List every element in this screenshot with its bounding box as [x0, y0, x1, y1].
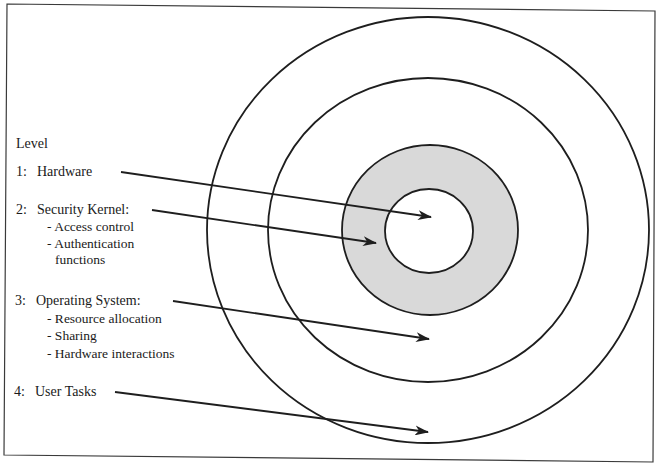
level-3-item: - Resource allocation [47, 311, 162, 326]
ring-hardware [385, 189, 473, 273]
security-rings-diagram: Level 1: Hardware 2: Security Kernel: - … [0, 0, 660, 466]
level-2-name: Security Kernel: [37, 202, 129, 217]
level-2-item: functions [55, 252, 105, 267]
level-2-number: 2: [16, 202, 27, 217]
level-4-number: 4: [14, 384, 25, 399]
level-3-item: - Hardware interactions [47, 346, 174, 361]
level-1-name: Hardware [37, 164, 92, 179]
legend-title: Level [16, 136, 48, 151]
level-3-name: Operating System: [36, 293, 141, 308]
arrow-user-tasks [115, 392, 428, 432]
level-2-item: - Access control [47, 219, 134, 234]
level-3-item: - Sharing [47, 328, 97, 343]
level-3-number: 3: [15, 293, 26, 308]
level-4-name: User Tasks [35, 384, 96, 399]
level-2-item: - Authentication [47, 236, 134, 251]
level-1-number: 1: [16, 164, 27, 179]
